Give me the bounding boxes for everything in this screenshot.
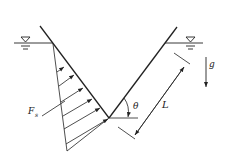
pressure-distribution	[53, 44, 109, 151]
length-label: L	[161, 99, 169, 110]
gravity-label: g	[209, 59, 215, 69]
water-level-icon	[21, 37, 30, 42]
force-label: F	[27, 106, 35, 116]
water-level-icon	[186, 37, 195, 42]
free-surface-right	[165, 37, 203, 49]
pressure-bottom-line	[67, 118, 109, 151]
length-dimension	[118, 53, 190, 139]
angle-arc	[124, 98, 129, 117]
force-label-group: F s	[27, 101, 65, 118]
free-surface-left	[14, 37, 53, 49]
force-subscript: s	[35, 111, 38, 118]
angle-label: θ	[133, 101, 139, 111]
extension-line-bottom	[118, 127, 135, 139]
v-channel-diagram: F s θ L g	[0, 0, 227, 165]
diagram-canvas: F s θ L g	[0, 0, 227, 165]
gravity-indicator: g	[206, 57, 215, 87]
left-wall	[40, 26, 109, 118]
extension-line-top	[174, 53, 190, 64]
